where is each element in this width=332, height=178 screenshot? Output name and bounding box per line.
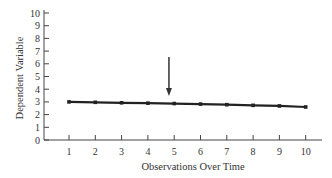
arrow-head-icon: [166, 88, 172, 96]
y-tick-label: 3: [35, 96, 40, 107]
data-point: [172, 102, 176, 106]
data-point: [225, 103, 229, 107]
x-tick-label: 4: [145, 146, 150, 157]
data-point: [304, 105, 308, 109]
x-axis: 12345678910: [44, 135, 322, 157]
data-point: [120, 101, 124, 105]
y-tick-label: 4: [35, 84, 40, 95]
data-series: [67, 100, 307, 109]
data-point: [199, 102, 203, 106]
x-tick-label: 2: [93, 146, 98, 157]
y-tick-label: 10: [30, 8, 40, 19]
y-tick-label: 5: [35, 71, 40, 82]
y-tick-label: 1: [35, 122, 40, 133]
data-point: [146, 101, 150, 105]
x-tick-label: 9: [277, 146, 282, 157]
y-tick-label: 2: [35, 109, 40, 120]
x-tick-label: 8: [251, 146, 256, 157]
y-tick-label: 9: [35, 20, 40, 31]
line-chart: 012345678910 12345678910 Dependent Varia…: [0, 0, 332, 178]
y-axis-title: Dependent Variable: [14, 36, 25, 119]
x-tick-label: 1: [67, 146, 72, 157]
data-point: [67, 100, 71, 104]
data-point: [94, 100, 98, 104]
x-tick-label: 3: [119, 146, 124, 157]
series-line: [69, 102, 306, 107]
y-axis: 012345678910: [30, 8, 49, 146]
y-tick-label: 7: [35, 46, 40, 57]
x-axis-title: Observations Over Time: [141, 161, 245, 172]
x-tick-label: 7: [224, 146, 229, 157]
data-point: [278, 104, 282, 108]
x-tick-label: 5: [172, 146, 177, 157]
y-tick-label: 0: [35, 135, 40, 146]
annotations: [166, 57, 172, 96]
x-tick-label: 6: [198, 146, 203, 157]
x-tick-label: 10: [301, 146, 311, 157]
y-tick-label: 8: [35, 33, 40, 44]
y-tick-label: 6: [35, 58, 40, 69]
data-point: [251, 104, 255, 108]
